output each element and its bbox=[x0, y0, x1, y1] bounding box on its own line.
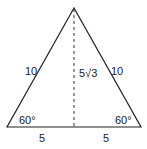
triangle-diagram: 10 10 5√3 60° 60° 5 5 bbox=[0, 0, 147, 149]
diagram-svg: 10 10 5√3 60° 60° 5 5 bbox=[0, 0, 147, 149]
right-half-base-label: 5 bbox=[103, 132, 109, 144]
left-side-label: 10 bbox=[25, 65, 37, 77]
right-side-label: 10 bbox=[111, 65, 123, 77]
left-half-base-label: 5 bbox=[39, 132, 45, 144]
right-angle-label: 60° bbox=[115, 114, 132, 126]
left-angle-label: 60° bbox=[19, 114, 36, 126]
altitude-label: 5√3 bbox=[79, 67, 97, 79]
